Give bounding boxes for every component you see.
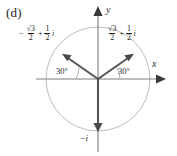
complex-label-right-operator: + <box>119 30 124 38</box>
complex-label-left-imag-numerator: 1 <box>44 25 50 33</box>
complex-label-upper-right: √3 2 + 1 2 i <box>106 25 136 43</box>
complex-label-right-imag-denominator: 2 <box>126 33 132 42</box>
y-axis-label: y <box>106 4 110 15</box>
y-axis-arrowhead <box>93 6 102 16</box>
complex-label-left-imag-denominator: 2 <box>44 33 50 42</box>
part-label: (d) <box>6 5 22 21</box>
complex-label-left-real-denominator: 2 <box>28 33 34 42</box>
angle-label-left: 30° <box>56 66 68 76</box>
complex-label-down-sign: − <box>80 133 85 143</box>
x-axis-label: x <box>152 58 156 69</box>
complex-label-right-real-numerator: √3 <box>107 25 117 33</box>
complex-label-down-imaginary-unit: i <box>86 133 89 143</box>
complex-label-left-real-fraction: √3 2 <box>26 25 36 43</box>
complex-label-right-imag-numerator: 1 <box>126 25 132 33</box>
complex-label-left-real-numerator: √3 <box>26 25 36 33</box>
vector-upper-left-shaft <box>67 57 99 79</box>
complex-label-left-imaginary-unit: i <box>52 30 54 38</box>
complex-label-right-real-denominator: 2 <box>109 33 115 42</box>
complex-label-right-imaginary-unit: i <box>133 30 135 38</box>
complex-label-left-imag-fraction: 1 2 <box>44 25 50 43</box>
complex-label-left-sign: − <box>19 30 24 38</box>
angle-label-right: 30° <box>118 66 130 76</box>
complex-label-right-imag-fraction: 1 2 <box>126 25 132 43</box>
angle-arc-left <box>76 68 79 79</box>
x-axis-arrowhead <box>156 74 166 83</box>
complex-label-down: −i <box>80 133 88 143</box>
complex-roots-figure: (d) y x 30° 30° − √3 2 + 1 2 i √3 2 + 1 … <box>0 0 177 156</box>
complex-label-left-operator: + <box>38 30 43 38</box>
complex-label-upper-left: − √3 2 + 1 2 i <box>18 25 54 43</box>
complex-label-right-real-fraction: √3 2 <box>107 25 117 43</box>
